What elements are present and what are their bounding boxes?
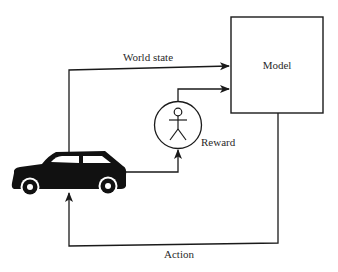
- car-to-reward-arrow: [126, 150, 178, 172]
- reward-node: Reward: [155, 102, 236, 149]
- action-label: Action: [164, 248, 194, 260]
- car-icon: [12, 151, 126, 197]
- rl-diagram: Model World state Reward Action: [0, 0, 338, 272]
- model-label: Model: [263, 59, 292, 71]
- world-state-label: World state: [123, 51, 173, 63]
- model-node: Model: [231, 17, 323, 113]
- reward-label: Reward: [201, 136, 236, 148]
- reward-to-model-arrow: [178, 89, 229, 102]
